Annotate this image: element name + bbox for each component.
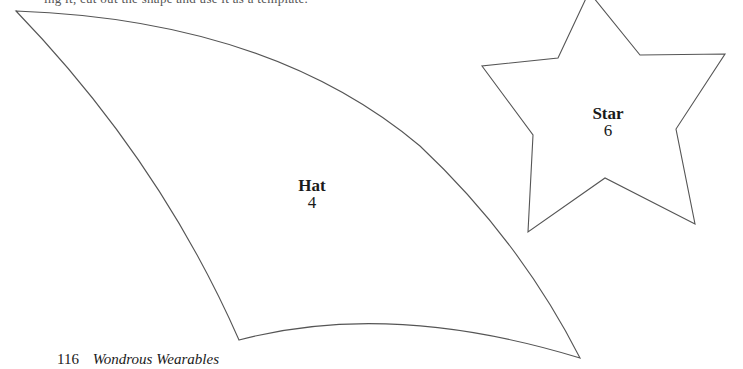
template-shapes	[0, 0, 743, 369]
star-number: 6	[583, 122, 633, 139]
page-number: 116	[57, 351, 79, 367]
hat-number: 4	[287, 194, 337, 211]
hat-label: Hat 4	[287, 177, 337, 211]
star-label: Star 6	[583, 105, 633, 139]
page-footer: 116 Wondrous Wearables	[57, 351, 219, 368]
hat-name: Hat	[287, 177, 337, 194]
book-title: Wondrous Wearables	[93, 351, 219, 367]
star-name: Star	[583, 105, 633, 122]
